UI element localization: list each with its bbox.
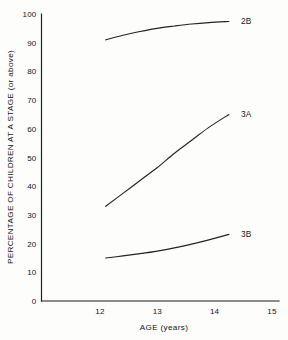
y-axis-tick-label: 90: [27, 39, 37, 48]
y-axis-title: PERCENTAGE OF CHILDREN AT A STAGE (or ab…: [6, 50, 15, 264]
y-axis-tick-label: 20: [27, 240, 37, 249]
series-line-3a: [106, 114, 229, 206]
series-label-2b: 2B: [241, 16, 252, 26]
y-axis-tick-label: 70: [27, 96, 37, 105]
series-label-3b: 3B: [241, 229, 252, 239]
series-label-3a: 3A: [241, 109, 252, 119]
y-axis-tick-label: 10: [27, 268, 37, 277]
x-axis-tick-label: 15: [267, 307, 277, 316]
x-axis-title: AGE (years): [140, 323, 188, 332]
x-axis-tick-label: 13: [153, 307, 163, 316]
plot-axes: [42, 14, 280, 301]
y-axis-tick-labels: 0102030405060708090100: [23, 10, 37, 306]
data-series-group: [106, 21, 229, 257]
y-axis-tick-label: 40: [27, 182, 37, 191]
y-axis-tick-label: 50: [27, 154, 37, 163]
line-chart: 0102030405060708090100 12131415 2B3A3B A…: [0, 0, 288, 340]
series-line-2b: [106, 21, 229, 39]
y-axis-tick-label: 60: [27, 125, 37, 134]
x-axis-tick-label: 14: [210, 307, 220, 316]
chart-page: 0102030405060708090100 12131415 2B3A3B A…: [0, 0, 288, 340]
y-axis-tick-label: 100: [23, 10, 37, 19]
y-axis-tick-label: 30: [27, 211, 37, 220]
y-axis-tick-label: 80: [27, 67, 37, 76]
x-axis-tick-label: 12: [95, 307, 105, 316]
y-axis-tick-label: 0: [32, 297, 37, 306]
series-line-3b: [106, 234, 229, 258]
x-axis-tick-labels: 12131415: [95, 307, 277, 316]
series-labels-group: 2B3A3B: [241, 16, 252, 239]
